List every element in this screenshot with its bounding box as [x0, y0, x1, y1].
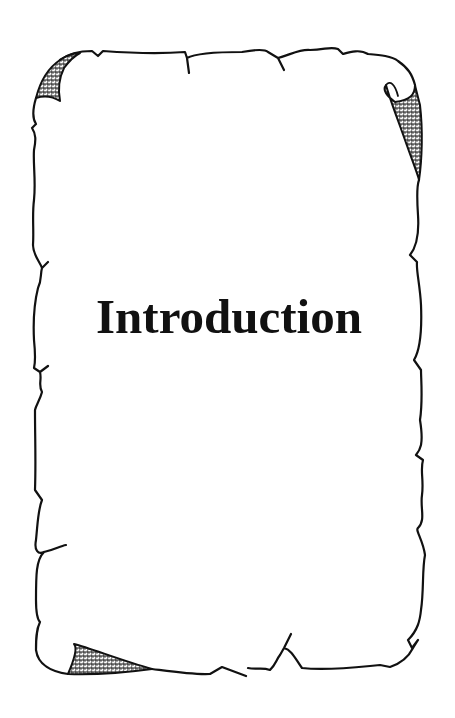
book-page: Introduction [0, 0, 455, 718]
bottom-left-curl [68, 644, 152, 674]
top-right-curl [385, 85, 422, 180]
top-left-curl [36, 53, 80, 101]
scroll-top-edge [60, 48, 415, 85]
scroll-right-edge [410, 180, 425, 610]
scroll-bottom-edge [152, 610, 421, 676]
scroll-left-edge [32, 98, 68, 674]
page-title: Introduction [0, 287, 455, 347]
parchment-scroll-border [0, 0, 455, 718]
